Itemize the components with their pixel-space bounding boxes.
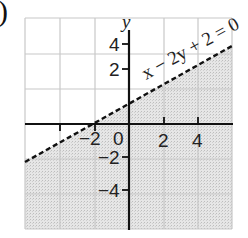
tick-label-origin: 0 [113, 128, 124, 149]
inequality-graph: y 4 2 −2 0 2 4 −2 −4 x − 2y + 2 = 0 [0, 0, 248, 238]
tick-label-y-4: 4 [109, 34, 120, 55]
tick-label-x-4: 4 [192, 130, 203, 151]
y-axis-label: y [120, 11, 131, 32]
tick-label-y-neg4: −4 [98, 180, 120, 201]
tick-label-y-2: 2 [109, 59, 120, 80]
tick-label-y-neg2: −2 [98, 147, 120, 168]
tick-label-x-2: 2 [158, 130, 169, 151]
tick-label-x-neg2: −2 [79, 128, 101, 149]
